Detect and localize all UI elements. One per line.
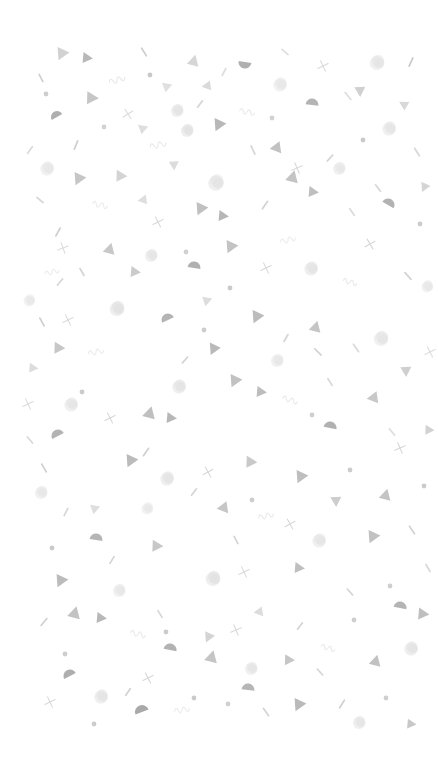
dot-icon [202,328,207,333]
squiggle-icon [150,140,167,149]
triangle-icon [418,182,431,194]
triangle-icon [54,342,65,354]
scatter-pattern-surface [0,0,438,770]
triangle-icon [169,161,179,170]
squiggle-icon [258,512,274,521]
blob-circle-icon [271,354,284,367]
dash-icon [198,101,203,107]
triangle-icon [67,605,83,620]
squiggle-icon [88,348,104,356]
squiggle-icon [321,644,336,652]
triangle-icon [285,654,295,665]
triangle-icon [29,363,39,374]
dash-icon [415,148,420,156]
dash-icon [282,49,288,54]
dash-icon [315,349,321,355]
squiggle-icon [130,630,146,638]
semicircle-icon [133,703,149,714]
dash-icon [426,565,430,572]
dash-icon [142,48,147,56]
semicircle-icon [188,261,202,269]
dash-icon [40,318,44,326]
triangle-icon [202,294,214,306]
dash-icon [409,526,414,533]
semicircle-icon [49,109,62,120]
blob-circle-icon [110,301,125,316]
dash-icon [345,93,351,100]
triangle-icon [201,80,211,91]
dot-icon [226,702,231,707]
triangle-icon [354,87,365,97]
dot-icon [384,696,389,701]
triangle-icon [295,562,306,574]
dash-icon [251,146,255,154]
x-cross-icon [365,239,375,249]
dash-icon [42,464,47,472]
dash-icon [298,623,303,629]
x-cross-icon [123,109,132,118]
triangle-icon [397,97,410,110]
decorative-pattern-canvas [0,0,438,770]
triangle-icon [204,649,220,664]
dash-icon [27,437,32,443]
blob-circle-icon [382,121,396,135]
blob-circle-icon [273,77,287,91]
triangle-icon [292,470,309,486]
triangle-icon [425,425,434,435]
triangle-icon [90,502,102,514]
dot-icon [250,498,255,503]
triangle-icon [248,310,265,326]
blob-circle-icon [245,662,258,675]
dot-icon [63,652,68,657]
blob-circle-icon [422,280,434,292]
x-cross-icon [58,243,69,254]
x-cross-icon [63,315,73,325]
dash-icon [409,58,413,66]
x-cross-icon [425,347,435,357]
triangle-icon [369,653,383,667]
triangle-icon [187,53,201,67]
dot-icon [352,618,357,623]
triangle-icon [246,456,257,468]
blob-circle-icon [35,486,48,499]
dash-icon [234,536,238,543]
squiggle-icon [343,278,358,286]
triangle-icon [379,487,393,501]
blob-circle-icon [40,161,54,175]
blob-circle-icon [94,689,108,703]
triangle-icon [87,91,99,104]
x-cross-icon [203,467,213,477]
triangle-icon [122,454,139,470]
blob-circle-icon [113,584,126,597]
triangle-icon [257,386,268,398]
triangle-icon [201,631,215,645]
dot-icon [388,584,393,589]
triangle-icon [222,240,239,256]
triangle-icon [83,52,94,64]
semicircle-icon [159,311,174,322]
dash-icon [389,429,394,435]
blob-circle-icon [181,124,194,137]
dash-icon [317,669,322,675]
blob-circle-icon [206,571,221,586]
dot-icon [80,390,85,395]
semicircle-icon [324,420,338,429]
triangle-icon [290,698,307,714]
blob-circle-icon [404,641,418,655]
dot-icon [184,250,189,255]
dot-icon [418,222,423,227]
dash-icon [80,269,84,276]
squiggle-icon [239,108,255,116]
dash-icon [126,689,131,696]
triangle-icon [269,141,281,154]
triangle-icon [330,497,341,507]
triangle-icon [253,606,263,617]
dash-icon [340,700,345,708]
triangle-icon [167,412,178,424]
dot-icon [348,468,353,473]
squiggle-icon [109,75,126,85]
dot-icon [192,696,197,701]
triangle-icon [116,170,127,182]
x-cross-icon [231,625,241,635]
dot-icon [102,125,107,130]
